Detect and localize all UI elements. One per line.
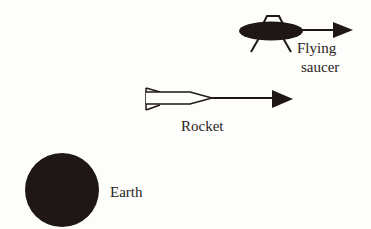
rocket-label: Rocket (181, 118, 224, 134)
saucer-body (239, 22, 303, 41)
saucer-velocity-arrow-icon (300, 22, 353, 38)
saucer-label-line2: saucer (301, 59, 339, 75)
diagram-canvas: Flying saucer Rocket Earth (0, 0, 371, 229)
saucer-leg-right (283, 38, 291, 52)
rocket-velocity-arrow-icon (212, 90, 293, 108)
flying-saucer-icon (239, 16, 303, 52)
saucer-label-line1: Flying (297, 40, 337, 56)
earth-icon (25, 153, 99, 227)
diagram-svg: Flying saucer Rocket Earth (0, 0, 371, 229)
saucer-leg-left (251, 38, 259, 52)
rocket-icon (146, 88, 212, 110)
earth-label: Earth (110, 184, 143, 200)
